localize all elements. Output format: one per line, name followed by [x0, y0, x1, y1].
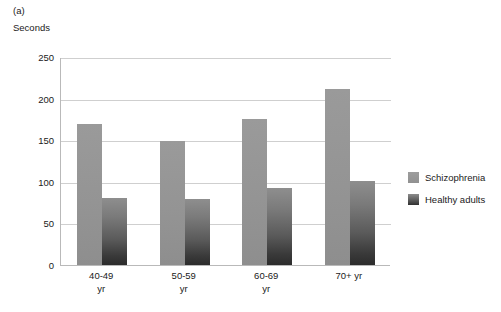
x-axis-tick-label: 40-49yr — [61, 269, 141, 295]
x-axis-tick-label-group: 40-49yr50-59yr60-69yr70+ yr — [60, 269, 390, 309]
bar-healthy-adults — [185, 199, 210, 265]
bar-schizophrenia — [325, 89, 350, 265]
panel-label: (a) — [13, 5, 25, 17]
bar-schizophrenia — [160, 141, 185, 265]
plot-area — [60, 58, 390, 266]
legend-entry: Healthy adults — [408, 188, 500, 210]
x-axis-tick-label: 50-59yr — [144, 269, 224, 295]
bar-group — [160, 57, 210, 265]
x-axis-tick-label: 60-69yr — [226, 269, 306, 295]
legend-entry: Schizophrenia — [408, 166, 500, 188]
y-axis-tick-label: 100 — [8, 178, 54, 188]
y-axis-unit-label: Seconds — [13, 22, 50, 34]
legend-color-swatch — [408, 194, 419, 205]
bar-group — [242, 57, 292, 265]
bar-schizophrenia — [77, 124, 102, 265]
y-axis-tick-label: 50 — [8, 219, 54, 229]
bar-chart-figure: (a) Seconds 050100150200250 40-49yr50-59… — [0, 0, 501, 312]
y-axis-tick-label: 0 — [8, 261, 54, 271]
legend-label: Healthy adults — [425, 194, 485, 205]
legend-label: Schizophrenia — [425, 172, 485, 183]
y-axis-tick-label: 200 — [8, 95, 54, 105]
bar-schizophrenia — [242, 119, 267, 265]
y-axis-tick-label: 150 — [8, 136, 54, 146]
bar-healthy-adults — [102, 198, 127, 265]
chart-legend: SchizophreniaHealthy adults — [408, 166, 500, 210]
legend-color-swatch — [408, 172, 419, 183]
bar-healthy-adults — [267, 188, 292, 265]
bar-healthy-adults — [350, 181, 375, 265]
x-axis-tick-label: 70+ yr — [309, 269, 389, 282]
y-axis-tick-label: 250 — [8, 53, 54, 63]
bar-group — [325, 57, 375, 265]
y-axis-tick-label-group: 050100150200250 — [0, 58, 54, 266]
bar-group — [77, 57, 127, 265]
